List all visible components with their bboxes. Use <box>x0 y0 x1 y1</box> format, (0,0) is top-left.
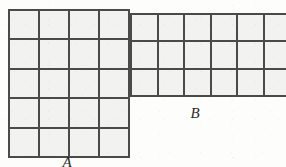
grid-figure-a <box>8 9 130 158</box>
grid-cell <box>265 15 286 40</box>
grid-cell <box>70 11 98 38</box>
grid-cell <box>238 42 263 67</box>
grid-cell <box>10 70 38 97</box>
grid-cell <box>159 42 184 67</box>
grid-cell <box>100 11 128 38</box>
grid-figure-b <box>130 13 286 97</box>
figure-label-b: B <box>180 106 210 121</box>
grid-cell <box>40 129 68 156</box>
grid-cell <box>70 99 98 126</box>
grid-cell <box>100 70 128 97</box>
grid-cell <box>132 42 157 67</box>
grid-cell <box>70 40 98 67</box>
grid-cell <box>40 99 68 126</box>
grid-cell <box>185 42 210 67</box>
figure-label-a: A <box>52 155 82 167</box>
grid-cell <box>159 70 184 95</box>
grid-cell <box>10 99 38 126</box>
grid-cell <box>185 70 210 95</box>
figure-canvas: A B <box>0 0 286 167</box>
grid-cell <box>132 70 157 95</box>
grid-cell <box>265 42 286 67</box>
grid-cell <box>132 15 157 40</box>
grid-cell <box>40 40 68 67</box>
grid-cell <box>70 129 98 156</box>
grid-cell <box>185 15 210 40</box>
grid-cell <box>212 42 237 67</box>
grid-cell <box>10 11 38 38</box>
grid-cell <box>40 70 68 97</box>
grid-cell <box>100 99 128 126</box>
grid-cell <box>238 70 263 95</box>
grid-cell <box>10 129 38 156</box>
grid-cell <box>100 129 128 156</box>
grid-cell <box>159 15 184 40</box>
grid-cell <box>100 40 128 67</box>
grid-cell <box>40 11 68 38</box>
grid-cell <box>212 15 237 40</box>
grid-cell <box>70 70 98 97</box>
grid-cell <box>238 15 263 40</box>
grid-cell <box>10 40 38 67</box>
grid-cell <box>265 70 286 95</box>
grid-cell <box>212 70 237 95</box>
